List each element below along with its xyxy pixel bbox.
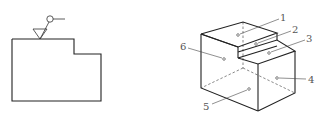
- label-2: 2: [292, 24, 298, 35]
- label-5: 5: [203, 101, 209, 112]
- technical-drawing: 1 2 3 4 5 6: [0, 0, 325, 120]
- visible-edges: [201, 22, 295, 111]
- front-view-outline: [12, 39, 101, 101]
- surface-1-marker: [237, 34, 240, 37]
- surface-2-marker: [255, 43, 258, 46]
- surface-6-marker: [223, 58, 226, 61]
- front-view: [12, 16, 101, 101]
- surface-finish-symbol-icon: [33, 16, 65, 39]
- surface-4-marker: [276, 77, 279, 80]
- label-4: 4: [308, 74, 314, 85]
- isometric-view: 1 2 3 4 5 6: [180, 12, 314, 112]
- label-6: 6: [180, 41, 186, 52]
- label-3: 3: [306, 33, 312, 44]
- surface-3-marker: [268, 52, 271, 55]
- hidden-edges: [201, 22, 295, 93]
- leaders: [188, 19, 306, 104]
- surface-5-marker: [248, 88, 251, 91]
- label-1: 1: [280, 12, 286, 23]
